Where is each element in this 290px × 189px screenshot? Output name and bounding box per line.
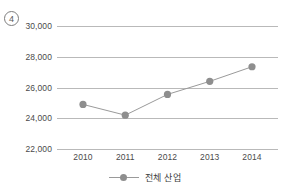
- x-tick-label: 2010: [73, 152, 92, 162]
- data-point-marker: [164, 91, 171, 98]
- x-tick-label: 2014: [242, 152, 261, 162]
- legend-line-marker: [109, 173, 139, 182]
- plot-area: [57, 26, 278, 149]
- y-tick-label: 30,000: [25, 21, 52, 31]
- x-tick-label: 2011: [116, 152, 135, 162]
- x-tick-label: 2013: [200, 152, 219, 162]
- x-axis-tick-labels: 20102011201220132014: [57, 152, 278, 168]
- data-point-marker: [248, 63, 255, 70]
- legend-label-total-industry: 전체 산업: [145, 171, 181, 184]
- y-tick-label: 24,000: [25, 113, 52, 123]
- legend-dot-icon: [120, 174, 127, 181]
- x-tick-label: 2012: [158, 152, 177, 162]
- data-point-marker: [206, 78, 213, 85]
- y-axis-tick-labels: 30,00028,00026,00024,00022,000: [0, 26, 52, 149]
- y-tick-label: 26,000: [25, 83, 52, 93]
- data-point-marker: [122, 112, 129, 119]
- figure-index-marker: 4: [4, 11, 19, 26]
- chart-figure: 4 30,00028,00026,00024,00022,000 2010201…: [0, 0, 290, 189]
- series-layer: [57, 26, 278, 149]
- y-tick-label: 28,000: [25, 52, 52, 62]
- chart-legend: 전체 산업: [0, 168, 290, 186]
- gridline: [57, 149, 278, 150]
- y-tick-label: 22,000: [25, 144, 52, 154]
- data-point-marker: [79, 101, 86, 108]
